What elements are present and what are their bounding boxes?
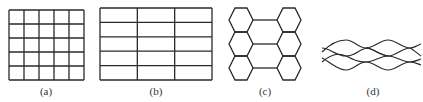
panel-label-a: (a) (40, 85, 52, 97)
panel-label-b: (b) (150, 85, 163, 97)
wavy-mesh-panel-d (322, 40, 421, 70)
honeycomb-panel-c (229, 8, 301, 80)
rectangular-grid-panel-b (100, 8, 212, 80)
panel-label-c: (c) (259, 85, 271, 97)
panel-label-d: (d) (367, 85, 380, 97)
figure-canvas (0, 0, 423, 102)
square-grid-panel-a (9, 10, 84, 80)
